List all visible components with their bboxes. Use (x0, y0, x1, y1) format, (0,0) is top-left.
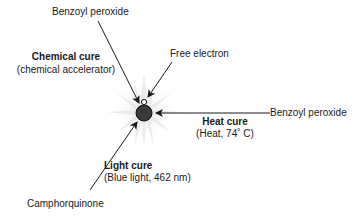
chemical-cure-title: Chemical cure (10, 51, 122, 63)
heat-cure-subtitle: (Heat, 74˚ C) (185, 128, 265, 140)
radical-icon (136, 105, 152, 121)
chemical-cure-subtitle: (chemical accelerator) (10, 64, 122, 76)
heat-source-label: Benzoyl peroxide (270, 107, 347, 119)
light-cure-subtitle: (Blue light, 462 nm) (104, 172, 191, 184)
free-electron-label: Free electron (170, 48, 229, 60)
free-electron-icon (141, 99, 146, 104)
cure-mechanisms-diagram: Benzoyl peroxide Chemical cure (chemical… (0, 0, 354, 216)
light-cure-title: Light cure (104, 160, 152, 172)
light-source-label: Camphorquinone (27, 198, 104, 210)
chemical-source-label: Benzoyl peroxide (52, 6, 129, 18)
heat-cure-title: Heat cure (190, 116, 260, 128)
